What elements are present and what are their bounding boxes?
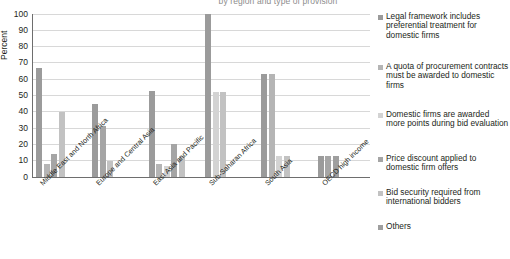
legend-label: Domestic firms are awarded more points d… [386, 110, 510, 129]
gridline [32, 79, 370, 80]
y-axis-title: Percent [0, 31, 9, 60]
legend-swatch-icon [378, 65, 383, 70]
gridline [32, 30, 370, 31]
y-tick-label: 100 [2, 10, 28, 18]
bar [318, 156, 324, 177]
legend-swatch-icon [378, 113, 383, 118]
y-tick-label: 20 [2, 140, 28, 148]
legend-label: Legal framework includes preferential tr… [386, 12, 510, 40]
bar [205, 14, 211, 177]
plot-area [32, 14, 370, 177]
gridline [32, 128, 370, 129]
legend-label: Price discount applied to domestic firm … [386, 154, 510, 173]
y-tick-label: 50 [2, 91, 28, 99]
bar [92, 104, 98, 177]
gridline [32, 62, 370, 63]
legend-label: A quota of procurement contracts must be… [386, 62, 510, 90]
legend-label: Bid security required from international… [386, 188, 510, 207]
chart-title: by region and type of provision [163, 0, 393, 6]
bar [36, 68, 42, 177]
legend-swatch-icon [378, 225, 383, 230]
y-tick-label: 0 [2, 173, 28, 181]
y-tick-label: 60 [2, 75, 28, 83]
plot-canvas [32, 14, 370, 177]
y-axis-line [32, 14, 33, 177]
legend-swatch-icon [378, 157, 383, 162]
y-tick-label: 30 [2, 124, 28, 132]
gridline [32, 14, 370, 15]
y-tick-label: 40 [2, 107, 28, 115]
y-tick-label: 10 [2, 156, 28, 164]
gridline [32, 111, 370, 112]
bar [269, 74, 275, 177]
bar-chart: by region and type of provision 01020304… [0, 0, 510, 259]
legend-label: Others [386, 222, 510, 231]
gridline [32, 95, 370, 96]
legend-swatch-icon [378, 15, 383, 20]
gridline [32, 46, 370, 47]
bar [261, 74, 267, 177]
legend-swatch-icon [378, 191, 383, 196]
bar [213, 92, 219, 177]
